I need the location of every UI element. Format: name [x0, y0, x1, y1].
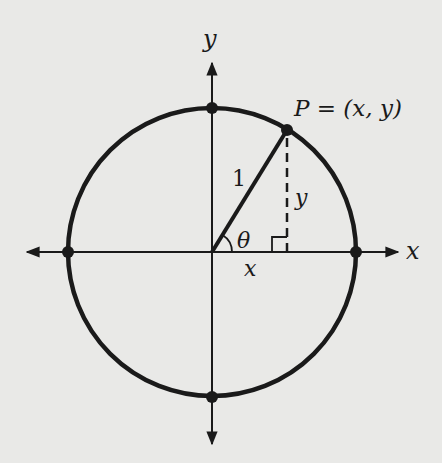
y-leg-label: y [294, 185, 308, 210]
intercept-dot-left [62, 246, 74, 258]
intercept-dot-right [350, 246, 362, 258]
intercept-dot-bottom [206, 391, 218, 403]
radius-label: 1 [232, 166, 246, 191]
intercept-dot-top [206, 102, 218, 114]
x-leg-label: x [244, 256, 257, 281]
right-angle-marker [272, 237, 287, 252]
angle-arc [223, 235, 233, 252]
point-label: P = (x, y) [293, 95, 402, 121]
point-p-dot [281, 124, 293, 136]
angle-label: θ [237, 228, 250, 253]
unit-circle-diagram: y x P = (x, y) 1 θ x y [0, 0, 442, 463]
x-axis-label: x [406, 237, 420, 265]
y-axis-label: y [202, 25, 217, 53]
